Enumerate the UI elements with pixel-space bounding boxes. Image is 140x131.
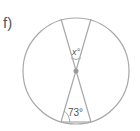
- angle-bottom-label: 73°: [68, 107, 83, 118]
- center-dot: [74, 69, 79, 74]
- angle-top-label: x°: [71, 47, 81, 57]
- circle-diagram: x° 73°: [0, 0, 140, 131]
- angle-arc-top: [71, 58, 81, 60]
